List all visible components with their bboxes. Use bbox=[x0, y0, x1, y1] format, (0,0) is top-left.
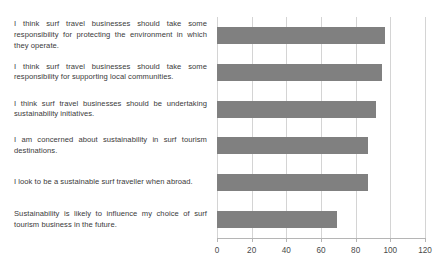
x-axis-tick-mark bbox=[252, 238, 253, 242]
plot-area bbox=[217, 17, 425, 238]
x-axis-tick-label: 120 bbox=[410, 246, 440, 255]
bar bbox=[217, 137, 368, 154]
gridline bbox=[252, 17, 253, 238]
bar-chart-figure: I think surf travel businesses should ta… bbox=[0, 0, 444, 274]
bar bbox=[217, 174, 368, 191]
category-label-column: I think surf travel businesses should ta… bbox=[0, 17, 210, 238]
category-label: I think surf travel businesses should ta… bbox=[14, 62, 207, 83]
gridline bbox=[321, 17, 322, 238]
category-label: I am concerned about sustainability in s… bbox=[14, 135, 207, 156]
x-axis-tick-mark bbox=[356, 238, 357, 242]
category-label: Sustainability is likely to influence my… bbox=[14, 209, 207, 230]
x-axis-tick-mark bbox=[321, 238, 322, 242]
category-label: I think surf travel businesses should be… bbox=[14, 99, 207, 120]
x-axis-tick-mark bbox=[390, 238, 391, 242]
category-label: I think surf travel businesses should ta… bbox=[14, 19, 207, 51]
x-axis-tick-label: 100 bbox=[375, 246, 405, 255]
x-axis-tick-label: 0 bbox=[202, 246, 232, 255]
x-axis-tick-label: 60 bbox=[306, 246, 336, 255]
x-axis-tick-mark bbox=[425, 238, 426, 242]
category-label: I look to be a sustainable surf travelle… bbox=[14, 177, 207, 188]
gridline bbox=[286, 17, 287, 238]
bar bbox=[217, 64, 382, 81]
gridline bbox=[390, 17, 391, 238]
bar bbox=[217, 211, 337, 228]
gridline bbox=[217, 17, 218, 238]
x-axis-tick-label: 80 bbox=[341, 246, 371, 255]
bar bbox=[217, 27, 385, 44]
gridline bbox=[425, 17, 426, 238]
x-axis-tick-mark bbox=[217, 238, 218, 242]
x-axis-tick-label: 40 bbox=[271, 246, 301, 255]
x-axis-tick-mark bbox=[286, 238, 287, 242]
bar bbox=[217, 101, 376, 118]
gridline bbox=[356, 17, 357, 238]
x-axis-tick-label: 20 bbox=[237, 246, 267, 255]
